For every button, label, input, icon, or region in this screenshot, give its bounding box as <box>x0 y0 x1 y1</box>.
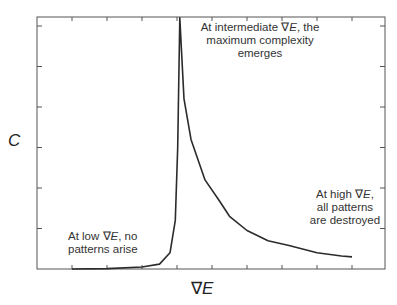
chart-canvas <box>0 0 397 305</box>
x-axis-label: ∇E <box>191 278 213 299</box>
annotation-intermediate: At intermediate ∇E, the maximum complexi… <box>200 21 320 60</box>
annotation-line: At intermediate ∇E, the <box>200 21 320 34</box>
annotation-line: are destroyed <box>300 214 390 227</box>
annotation-low: At low ∇E, no patterns arise <box>68 230 168 256</box>
annotation-line: patterns arise <box>68 243 168 256</box>
annotation-high: At high ∇E, all patterns are destroyed <box>300 188 390 227</box>
annotation-line: maximum complexity <box>200 34 320 47</box>
x-axis-variable: E <box>202 279 213 298</box>
annotation-line: all patterns <box>300 201 390 214</box>
annotation-line: At high ∇E, <box>300 188 390 201</box>
annotation-line: emerges <box>200 47 320 60</box>
y-axis-label: C <box>8 131 20 151</box>
annotation-line: At low ∇E, no <box>68 230 168 243</box>
nabla-symbol: ∇ <box>191 279 202 298</box>
